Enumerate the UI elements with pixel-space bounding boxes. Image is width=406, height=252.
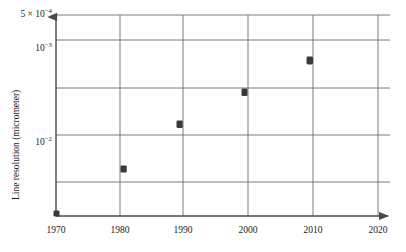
y-tick-label-1e-2: 10−2 — [0, 138, 52, 148]
y-tick-top-mantissa: 5 × 10 — [20, 9, 44, 19]
data-point-1970 — [54, 211, 60, 217]
y-tick-mid-base: 10 — [35, 43, 45, 53]
data-point-2010 — [307, 57, 314, 65]
line-resolution-scatter-chart: Line resolution (micrometer) 5 × 10−4 10… — [0, 0, 406, 252]
y-tick-low-exponent: −2 — [45, 135, 52, 142]
chart-plot-area — [0, 0, 406, 252]
y-tick-low-base: 10 — [35, 137, 45, 147]
horizontal-gridlines — [56, 15, 390, 182]
data-point-2000 — [242, 89, 248, 97]
x-tick-label-2020: 2020 — [358, 226, 398, 236]
y-tick-label-1e-3: 10−3 — [0, 44, 52, 54]
y-tick-top-exponent: −4 — [45, 7, 52, 14]
data-point-1981 — [121, 166, 127, 173]
y-tick-label-top: 5 × 10−4 — [0, 10, 52, 20]
x-tick-label-1990: 1990 — [163, 226, 203, 236]
x-tick-label-2000: 2000 — [228, 226, 268, 236]
x-tick-label-1970: 1970 — [36, 226, 76, 236]
data-point-1990 — [177, 121, 183, 129]
vertical-gridlines — [120, 15, 378, 216]
y-tick-mid-exponent: −3 — [45, 41, 52, 48]
x-tick-label-2010: 2010 — [293, 226, 333, 236]
x-tick-label-1980: 1980 — [100, 226, 140, 236]
